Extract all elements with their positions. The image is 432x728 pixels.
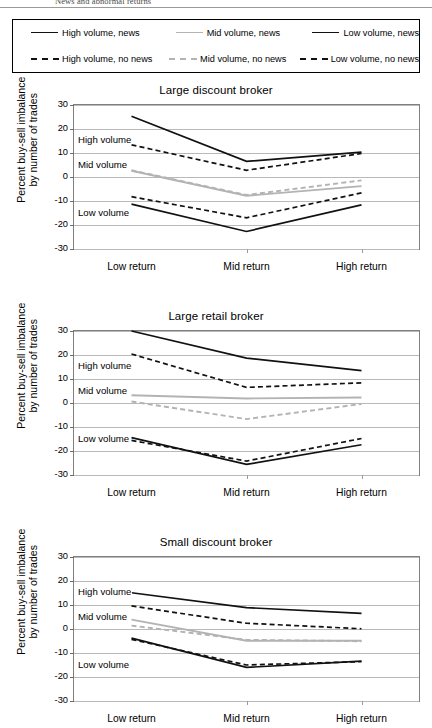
- y-axis-tick: [70, 427, 74, 428]
- chart-small-discount-broker: Small discount broker Percent buy-sell i…: [0, 536, 432, 728]
- legend-item-high-volume-no-news: High volume, no news: [31, 55, 169, 64]
- y-axis-label-line2: by number of trades: [27, 319, 39, 412]
- gridline: [74, 677, 419, 678]
- y-axis-tick-label: 30: [58, 552, 68, 561]
- x-axis-tick-label: Mid return: [223, 487, 269, 498]
- plot-annotation: High volume: [77, 361, 132, 371]
- plot-annotation: Low volume: [77, 660, 130, 670]
- gridline: [74, 451, 419, 452]
- series-line: [132, 395, 362, 398]
- series-line: [132, 145, 362, 170]
- series-line: [132, 170, 362, 195]
- y-axis-tick-label: -30: [55, 696, 68, 705]
- y-axis-tick-label: -10: [55, 422, 68, 431]
- legend-item-mid-volume-no-news: Mid volume, no news: [169, 55, 300, 64]
- series-line: [132, 620, 362, 641]
- gridline: [74, 201, 419, 202]
- y-axis-tick-label: -30: [55, 244, 68, 253]
- figure-page: News and abnormal returns High volume, n…: [0, 0, 432, 728]
- chart-title: Large retail broker: [0, 310, 432, 322]
- y-axis-tick: [70, 249, 74, 250]
- chart-large-discount-broker: Large discount broker Percent buy-sell i…: [0, 84, 432, 292]
- plot-annotation: High volume: [77, 135, 132, 145]
- y-axis-label-line1: Percent buy-sell imbalance: [15, 77, 27, 203]
- y-axis-tick: [70, 355, 74, 356]
- y-axis-tick: [70, 677, 74, 678]
- plot-annotation: High volume: [77, 587, 132, 597]
- y-axis-label-line1: Percent buy-sell imbalance: [15, 303, 27, 429]
- x-axis-tick: [247, 701, 248, 705]
- series-line: [132, 606, 362, 629]
- y-axis-tick-label: 20: [58, 124, 68, 133]
- x-axis-tick: [247, 475, 248, 479]
- y-axis-tick: [70, 177, 74, 178]
- series-line: [132, 402, 362, 420]
- plot-annotation: Mid volume: [77, 386, 128, 396]
- gridline: [74, 427, 419, 428]
- series-line: [132, 439, 362, 462]
- plot-annotation: Mid volume: [77, 612, 128, 622]
- y-axis-tick-label: 30: [58, 100, 68, 109]
- gridline: [74, 403, 419, 404]
- legend-item-low-volume-no-news: Low volume, no news: [300, 55, 419, 64]
- gridline: [74, 105, 419, 106]
- running-header: News and abnormal returns: [55, 0, 151, 6]
- y-axis-tick-label: 20: [58, 350, 68, 359]
- legend-row-news: High volume, news Mid volume, news Low v…: [13, 20, 419, 47]
- y-axis-label: Percent buy-sell imbalance by number of …: [16, 516, 40, 668]
- y-axis-tick: [70, 629, 74, 630]
- gridline: [74, 331, 419, 332]
- y-axis-tick-label: 10: [58, 374, 68, 383]
- y-axis-tick-label: -10: [55, 196, 68, 205]
- y-axis-tick-label: 0: [63, 172, 68, 181]
- y-axis-tick: [70, 403, 74, 404]
- plot-annotation: Low volume: [77, 208, 130, 218]
- y-axis-tick: [70, 379, 74, 380]
- y-axis-tick: [70, 153, 74, 154]
- y-axis-label-line1: Percent buy-sell imbalance: [15, 529, 27, 655]
- plot-area: 3020100-10-20-30Low returnMid returnHigh…: [73, 104, 420, 250]
- legend-row-no-news: High volume, no news Mid volume, no news…: [13, 46, 419, 73]
- y-axis-tick: [70, 201, 74, 202]
- series-line: [132, 193, 362, 218]
- y-axis-tick-label: 10: [58, 148, 68, 157]
- x-axis-tick-label: High return: [336, 713, 387, 724]
- y-axis-tick: [70, 605, 74, 606]
- y-axis-tick: [70, 557, 74, 558]
- y-axis-tick: [70, 129, 74, 130]
- y-axis-tick-label: -20: [55, 672, 68, 681]
- series-line: [132, 354, 362, 387]
- series-line: [132, 626, 362, 642]
- x-axis-tick-label: Mid return: [223, 713, 269, 724]
- gridline: [74, 581, 419, 582]
- plot-area: 3020100-10-20-30Low returnMid returnHigh…: [73, 330, 420, 476]
- plot-area: 3020100-10-20-30Low returnMid returnHigh…: [73, 556, 420, 702]
- y-axis-tick-label: 0: [63, 624, 68, 633]
- y-axis-tick: [70, 105, 74, 106]
- gridline: [74, 177, 419, 178]
- gridline: [74, 653, 419, 654]
- gridline: [74, 379, 419, 380]
- y-axis-label: Percent buy-sell imbalance by number of …: [16, 64, 40, 216]
- plot-annotation: Mid volume: [77, 160, 128, 170]
- y-axis-tick: [70, 451, 74, 452]
- plot-annotation: Low volume: [77, 434, 130, 444]
- y-axis-tick: [70, 475, 74, 476]
- gridline: [74, 355, 419, 356]
- legend-label: Low volume, news: [343, 29, 419, 38]
- legend-label: High volume, no news: [62, 55, 152, 64]
- legend-label: High volume, news: [62, 29, 140, 38]
- series-line: [132, 331, 362, 371]
- x-axis-tick-label: High return: [336, 487, 387, 498]
- y-axis-tick-label: -20: [55, 220, 68, 229]
- x-axis-tick-label: Low return: [107, 261, 156, 272]
- y-axis-tick: [70, 701, 74, 702]
- y-axis-tick-label: 10: [58, 600, 68, 609]
- header-rule: [0, 7, 432, 8]
- legend-label: Low volume, no news: [331, 55, 419, 64]
- chart-title: Small discount broker: [0, 536, 432, 548]
- series-line: [132, 204, 362, 231]
- y-axis-tick-label: 0: [63, 398, 68, 407]
- y-axis-tick: [70, 225, 74, 226]
- y-axis-tick: [70, 581, 74, 582]
